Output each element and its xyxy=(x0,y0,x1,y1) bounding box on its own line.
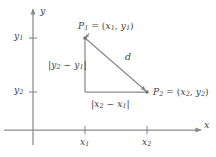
hleg-close-bar: | xyxy=(127,98,130,109)
y-tick-label-y1: y1 xyxy=(14,32,23,42)
point-label-p2: P2 = (x2, y2) xyxy=(153,88,209,98)
horizontal-leg-label: |x2 − x1| xyxy=(91,99,130,110)
vertical-leg-label: |y2 − y1| xyxy=(48,60,87,71)
p2-equals: = ( xyxy=(163,87,180,97)
hypotenuse-label-d: d xyxy=(125,52,131,62)
x-tick-label-x2: x2 xyxy=(142,138,151,148)
y1-subscript: 1 xyxy=(19,34,23,42)
distance-formula-diagram: y x y1 y2 x1 x2 P1 = (x1, y1) P2 = (x2, … xyxy=(0,0,216,157)
y-tick-label-y2: y2 xyxy=(14,86,23,96)
p1-vertex-dot xyxy=(83,36,86,39)
hypotenuse-segment xyxy=(85,38,146,91)
p1-equals: = ( xyxy=(88,21,105,31)
x2-subscript: 2 xyxy=(147,140,151,148)
y2-subscript: 2 xyxy=(19,88,23,96)
point-label-p1: P1 = (x1, y1) xyxy=(78,22,134,32)
p1-close-paren: ) xyxy=(130,21,134,31)
hleg-minus: − xyxy=(104,99,118,109)
p2-vertex-dot xyxy=(145,90,148,93)
x-axis-label: x xyxy=(204,120,209,130)
p2-close-paren: ) xyxy=(205,87,209,97)
y-axis-label: y xyxy=(40,6,45,16)
vleg-minus: − xyxy=(61,60,75,70)
x-tick-label-x1: x1 xyxy=(80,138,89,148)
vleg-close-bar: | xyxy=(84,59,87,70)
x1-subscript: 1 xyxy=(85,140,89,148)
